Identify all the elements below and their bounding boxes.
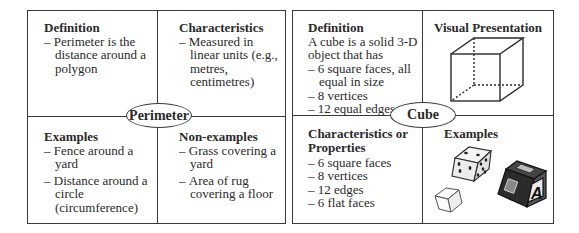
cube-center-label: Cube xyxy=(390,102,456,128)
block-letter: A xyxy=(530,185,543,202)
letter-block-icon: A xyxy=(0,0,579,233)
